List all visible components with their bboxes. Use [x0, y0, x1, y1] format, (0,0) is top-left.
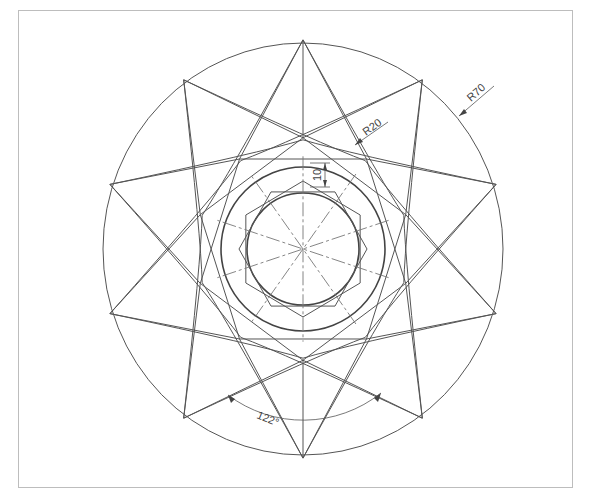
- fillet-curve: [184, 80, 303, 458]
- fillet-curve: [184, 40, 303, 418]
- technical-drawing: R70 R20 10 122°: [0, 0, 589, 501]
- dimension-10: 10: [310, 163, 330, 187]
- dim-label-r20: R20: [360, 116, 383, 138]
- dimension-r20: R20: [355, 116, 388, 145]
- pentagon-edge: [200, 215, 239, 339]
- dim-label-r70: R70: [464, 81, 487, 103]
- dimension-r70: R70: [459, 81, 494, 116]
- dimension-angle-122: 122°: [228, 393, 381, 428]
- pentagon-edge: [200, 159, 239, 283]
- star-geometry: [103, 40, 503, 458]
- dim-label-10: 10: [311, 169, 323, 181]
